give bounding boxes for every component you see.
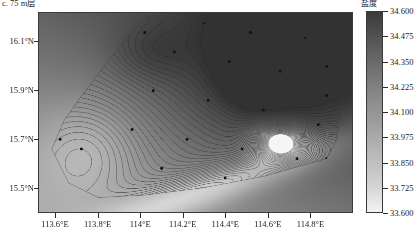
colorbar-tick-label: 33.850 xyxy=(390,158,413,168)
colorbar-tick-label: 34.225 xyxy=(390,82,413,92)
y-tick-label: 15.5°N xyxy=(0,183,34,193)
x-tick-label: 114.8°E xyxy=(285,219,335,229)
salinity-contour-figure: c. 75 m层 盐度 16.1°N15.9°N15.7°N15.5°N 113… xyxy=(0,0,418,238)
colorbar-tick-mark xyxy=(383,163,388,164)
x-tick-mark xyxy=(140,213,141,218)
x-tick-mark xyxy=(225,213,226,218)
colorbar-tick-label: 34.100 xyxy=(390,107,413,117)
plot-frame xyxy=(38,12,353,213)
y-tick-mark xyxy=(34,188,39,189)
colorbar-tick-mark xyxy=(383,36,388,37)
x-tick-mark xyxy=(183,213,184,218)
y-tick-label: 15.9°N xyxy=(0,85,34,95)
contour-plot-canvas xyxy=(39,13,352,212)
x-tick-mark xyxy=(310,213,311,218)
colorbar-tick-mark xyxy=(383,62,388,63)
y-tick-mark xyxy=(34,41,39,42)
colorbar-tick-mark xyxy=(383,112,388,113)
colorbar-tick-label: 33.725 xyxy=(390,183,413,193)
y-tick-mark xyxy=(34,90,39,91)
colorbar-tick-mark xyxy=(383,188,388,189)
colorbar-tick-mark xyxy=(383,87,388,88)
colorbar-tick-mark xyxy=(383,213,388,214)
panel-title: c. 75 m层 xyxy=(2,0,36,8)
colorbar-tick-label: 34.475 xyxy=(390,31,413,41)
colorbar-gradient xyxy=(366,11,383,213)
colorbar-tick-label: 33.975 xyxy=(390,132,413,142)
colorbar-tick-mark xyxy=(383,137,388,138)
colorbar-tick-label: 34.350 xyxy=(390,57,413,67)
x-tick-mark xyxy=(268,213,269,218)
x-tick-mark xyxy=(55,213,56,218)
colorbar-tick-label: 33.600 xyxy=(390,208,413,218)
colorbar-title: 盐度 xyxy=(361,0,377,8)
x-tick-mark xyxy=(98,213,99,218)
y-tick-label: 15.7°N xyxy=(0,134,34,144)
colorbar-tick-label: 34.600 xyxy=(390,6,413,16)
y-tick-label: 16.1°N xyxy=(0,36,34,46)
colorbar-tick-mark xyxy=(383,11,388,12)
y-tick-mark xyxy=(34,139,39,140)
